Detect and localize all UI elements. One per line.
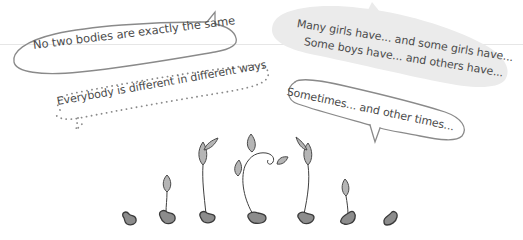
sprout-5	[296, 137, 314, 224]
sprout-3	[199, 138, 218, 223]
sprout-4	[235, 134, 288, 223]
seed-1	[123, 212, 136, 225]
sprout-6	[341, 179, 356, 224]
illustration: No two bodies are exactly the same Every…	[0, 0, 523, 240]
seed-7	[384, 212, 397, 225]
sprout-2	[160, 175, 176, 224]
sprouts-row	[123, 134, 397, 225]
